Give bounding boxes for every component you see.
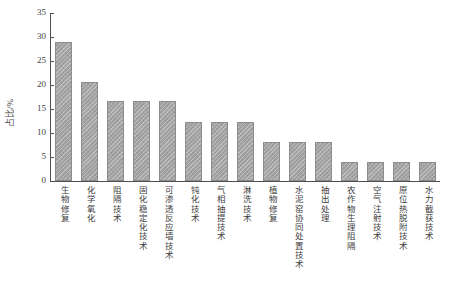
bar-slot: [76, 14, 102, 181]
x-axis-label: 水力截获技术: [422, 186, 432, 242]
x-label-slot: 气相抽提技术: [213, 186, 226, 296]
x-axis-label: 固化稳定化技术: [136, 186, 146, 251]
x-label-slot: 植物修复: [265, 186, 278, 296]
bar-slot: [206, 14, 232, 181]
bar-slot: [232, 14, 258, 181]
bar: [393, 162, 410, 181]
bar-chart: 占比/% 05101520253035 生物修复化学氧化阻隔技术固化稳定化技术可…: [0, 0, 451, 302]
x-label-slot: 农作物生理阻隔: [343, 186, 356, 296]
x-axis-label: 农作物生理阻隔: [344, 186, 354, 251]
bar-slot: [388, 14, 414, 181]
x-label-slot: 阻隔技术: [109, 186, 122, 296]
x-axis-label: 生物修复: [58, 186, 68, 223]
x-label-slot: 淋洗技术: [239, 186, 252, 296]
x-axis-label: 可渗透反应墙技术: [162, 186, 172, 260]
y-axis-title: 占比/%: [6, 78, 15, 148]
y-tick-label: 5: [42, 151, 47, 162]
bar: [341, 162, 358, 181]
x-axis-labels: 生物修复化学氧化阻隔技术固化稳定化技术可渗透反应墙技术钝化技术气相抽提技术淋洗技…: [50, 186, 440, 298]
bar: [263, 142, 280, 181]
bar-slot: [102, 14, 128, 181]
x-axis-label: 化学氧化: [84, 186, 94, 223]
bar: [185, 122, 202, 181]
y-tick-mark: [50, 181, 54, 182]
y-tick-label: 10: [37, 127, 46, 138]
x-label-slot: 固化稳定化技术: [135, 186, 148, 296]
y-tick: 0: [50, 181, 54, 182]
bar-slot: [50, 14, 76, 181]
bar: [211, 122, 228, 181]
x-label-slot: 原位热脱附技术: [395, 186, 408, 296]
bar-slot: [310, 14, 336, 181]
y-tick-label: 15: [37, 103, 46, 114]
bar: [237, 122, 254, 181]
x-label-slot: 水泥窑协同处置技术: [291, 186, 304, 296]
x-axis-label: 淋洗技术: [240, 186, 250, 223]
bar: [289, 142, 306, 181]
x-axis-label: 空气注射技术: [370, 186, 380, 242]
x-label-slot: 生物修复: [57, 186, 70, 296]
bar: [367, 162, 384, 181]
x-label-slot: 化学氧化: [83, 186, 96, 296]
y-tick-label: 30: [37, 31, 46, 42]
bar-slot: [154, 14, 180, 181]
x-axis-label: 水泥窑协同处置技术: [292, 186, 302, 270]
x-label-slot: 水力截获技术: [421, 186, 434, 296]
y-tick-label: 35: [37, 7, 46, 18]
bar: [133, 101, 150, 181]
x-axis-label: 阻隔技术: [110, 186, 120, 223]
x-label-slot: 空气注射技术: [369, 186, 382, 296]
bar-slot: [336, 14, 362, 181]
x-axis-label: 原位热脱附技术: [396, 186, 406, 251]
bars-layer: [50, 14, 440, 181]
bar-slot: [258, 14, 284, 181]
x-axis-label: 气相抽提技术: [214, 186, 224, 242]
bar: [315, 142, 332, 181]
x-axis-label: 抽出处理: [318, 186, 328, 223]
y-tick-label: 0: [42, 175, 47, 186]
x-label-slot: 可渗透反应墙技术: [161, 186, 174, 296]
plot-area: 05101520253035: [50, 14, 440, 182]
bar: [159, 101, 176, 181]
bar-slot: [180, 14, 206, 181]
bar: [81, 82, 98, 181]
bar: [55, 42, 72, 181]
bar-slot: [284, 14, 310, 181]
bar-slot: [128, 14, 154, 181]
bar-slot: [362, 14, 388, 181]
bar: [107, 101, 124, 181]
y-tick-label: 20: [37, 79, 46, 90]
bar-slot: [414, 14, 440, 181]
y-tick-label: 25: [37, 55, 46, 66]
x-axis-label: 植物修复: [266, 186, 276, 223]
x-axis-label: 钝化技术: [188, 186, 198, 223]
bar: [419, 162, 436, 181]
x-label-slot: 抽出处理: [317, 186, 330, 296]
x-label-slot: 钝化技术: [187, 186, 200, 296]
